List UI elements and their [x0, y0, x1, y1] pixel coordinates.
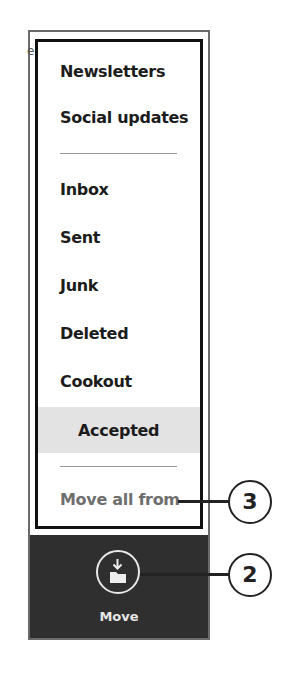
menu-divider [60, 466, 177, 467]
app-bar: Move [30, 535, 208, 638]
move-to-folder-icon [98, 552, 137, 591]
menu-item-cookout[interactable]: Cookout [60, 372, 132, 391]
menu-item-inbox[interactable]: Inbox [60, 180, 109, 199]
menu-divider [60, 153, 177, 154]
clipped-background-text: e [27, 44, 34, 58]
move-button[interactable] [96, 550, 140, 594]
callout-2: 2 [228, 553, 272, 597]
menu-item-deleted[interactable]: Deleted [60, 324, 128, 343]
callout-leader [140, 573, 230, 576]
move-all-from-item[interactable]: Move all from [60, 490, 180, 509]
callout-leader [178, 500, 230, 503]
menu-item-sent[interactable]: Sent [60, 228, 100, 247]
callout-3: 3 [228, 480, 272, 524]
menu-item-junk[interactable]: Junk [60, 276, 98, 295]
menu-item-accepted-label: Accepted [78, 421, 159, 440]
menu-item-accepted[interactable]: Accepted [38, 407, 200, 453]
folder-menu: Newsletters Social updates Inbox Sent Ju… [35, 39, 203, 529]
menu-item-social-updates[interactable]: Social updates [60, 108, 188, 127]
menu-item-newsletters[interactable]: Newsletters [60, 62, 165, 81]
move-label: Move [30, 609, 208, 624]
